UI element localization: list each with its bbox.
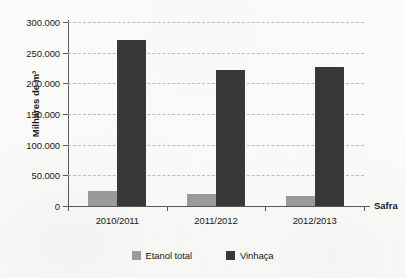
y-axis-tick [63, 22, 68, 23]
bar-chart: Milhares de m³ Safra 300.000250.000200.0… [0, 0, 405, 278]
legend-label: Vinhaça [240, 250, 273, 261]
bar-2012-2013-series0 [286, 196, 315, 206]
plot-area: 300.000250.000200.000150.000100.00050.00… [68, 22, 364, 206]
bar-2011-2012-series0 [187, 194, 216, 206]
x-axis-tick [68, 206, 69, 211]
x-axis-tick-label: 2011/2012 [194, 215, 237, 226]
bar-2012-2013-series1 [315, 67, 344, 206]
y-axis-tick-label: 200.000 [26, 78, 60, 89]
y-axis-tick-label: 300.000 [26, 17, 60, 28]
bar-2010-2011-series1 [117, 40, 146, 206]
x-axis-tick [167, 206, 168, 211]
legend-swatch-icon [132, 251, 141, 260]
y-axis-tick-label: 150.000 [26, 109, 60, 120]
chart-legend: Etanol totalVinhaça [0, 250, 405, 261]
x-axis-title: Safra [374, 200, 398, 211]
y-axis-tick-label: 100.000 [26, 139, 60, 150]
y-axis-tick-label: 50.000 [32, 170, 60, 181]
x-axis-tick [364, 206, 365, 211]
x-axis-tick-label: 2010/2011 [96, 215, 139, 226]
y-axis-tick-label: 0 [55, 201, 60, 212]
legend-item-vinhaca[interactable]: Vinhaça [226, 250, 273, 261]
gridline [68, 22, 364, 23]
legend-swatch-icon [226, 251, 235, 260]
y-axis-tick-label: 250.000 [26, 47, 60, 58]
gridline [68, 53, 364, 54]
x-axis-tick [265, 206, 266, 211]
y-axis-tick [63, 53, 68, 54]
bar-2010-2011-series0 [88, 191, 117, 206]
bar-2011-2012-series1 [216, 70, 245, 206]
y-axis-tick [63, 83, 68, 84]
y-axis-tick [63, 114, 68, 115]
x-axis-tick-label: 2012/2013 [293, 215, 337, 226]
y-axis-tick [63, 145, 68, 146]
legend-item-etanol-total[interactable]: Etanol total [132, 250, 192, 261]
y-axis-tick [63, 175, 68, 176]
legend-label: Etanol total [146, 250, 192, 261]
x-axis-line [68, 206, 370, 207]
